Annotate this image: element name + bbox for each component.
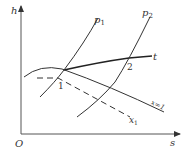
t-label: t [153,51,158,62]
quality-line-x1 [37,78,130,117]
p2-label: p2 [142,7,153,20]
isotherm-t [64,56,152,70]
origin-label: O [15,138,23,149]
x-equals-1-label: x=1 [150,99,166,112]
x-axis-label: s [170,137,175,148]
x1-label: x1 [129,115,138,126]
point-1-label: 1 [58,81,64,91]
isobar-p2 [77,17,150,117]
p1-label: p1 [94,14,105,27]
point-2-label: 2 [127,62,133,72]
y-axis-label: h [11,5,17,16]
isobar-p1 [40,18,98,97]
saturation-curve-x-equals-1 [24,68,164,112]
h-s-diagram: h s O p1 p2 t x=1 x1 1 2 [0,0,190,158]
